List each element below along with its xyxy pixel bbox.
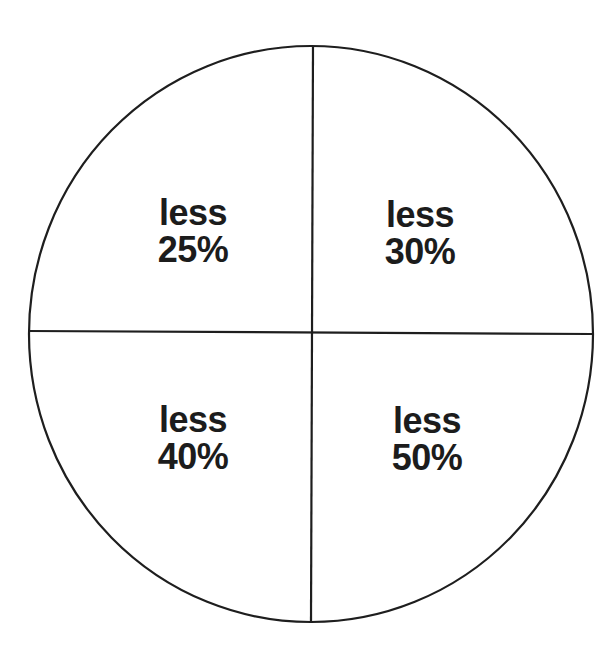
quadrant-label-line2: 25% (123, 231, 263, 268)
quadrant-label-line1: less (123, 401, 263, 438)
quadrant-label-bottom-right: less 50% (357, 402, 497, 476)
quadrant-label-top-left: less 25% (123, 194, 263, 268)
quadrant-label-line2: 30% (350, 233, 490, 270)
quadrant-label-line2: 50% (357, 439, 497, 476)
quadrant-circle-diagram (0, 0, 614, 662)
quadrant-label-bottom-left: less 40% (123, 401, 263, 475)
quadrant-label-line1: less (357, 402, 497, 439)
quadrant-label-line2: 40% (123, 438, 263, 475)
quadrant-label-line1: less (350, 196, 490, 233)
quadrant-label-top-right: less 30% (350, 196, 490, 270)
quadrant-label-line1: less (123, 194, 263, 231)
